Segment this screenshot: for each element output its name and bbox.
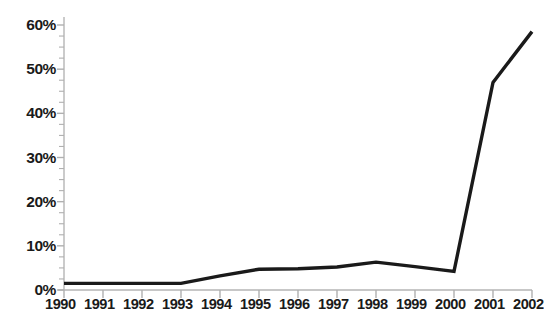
y-axis-tick-label: 10%	[4, 238, 56, 254]
y-axis-tick-label: 60%	[4, 17, 56, 33]
data-series-line	[64, 32, 532, 284]
x-axis-tick-label: 1993	[162, 296, 193, 312]
x-axis-tick-label: 1997	[318, 296, 349, 312]
x-axis-tick-label: 1999	[396, 296, 427, 312]
x-axis-tick-label: 1995	[240, 296, 271, 312]
x-axis-tick-label: 1994	[201, 296, 232, 312]
x-axis-tick-label: 1996	[279, 296, 310, 312]
x-axis-tick-label: 2002	[513, 296, 544, 312]
y-axis-tick-label: 30%	[4, 150, 56, 166]
x-axis-tick-labels: 1990199119921993199419951996199719981999…	[0, 296, 542, 320]
y-axis-tick-label: 50%	[4, 61, 56, 77]
x-axis-tick-label: 1998	[357, 296, 388, 312]
x-axis-tick-label: 1990	[45, 296, 76, 312]
y-axis-tick-labels: 0%10%20%30%40%50%60%	[0, 0, 56, 335]
y-axis-tick-label: 20%	[4, 194, 56, 210]
x-axis-tick-label: 1991	[84, 296, 115, 312]
x-axis-tick-label: 1992	[123, 296, 154, 312]
y-axis-tick-label: 40%	[4, 105, 56, 121]
x-axis-tick-label: 2001	[474, 296, 505, 312]
x-axis-tick-label: 2000	[435, 296, 466, 312]
